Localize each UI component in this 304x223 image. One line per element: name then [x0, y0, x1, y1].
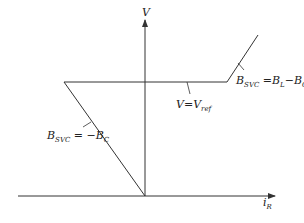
inductive-region-label: BSVC =BL−BC: [235, 74, 304, 89]
x-axis-label: iR: [263, 196, 273, 211]
capacitive-region-label: BSVC = −BC: [46, 129, 110, 144]
svc-vi-characteristic-diagram: V iR BSVC = −BC V=Vref BSVC =BL−BC: [0, 0, 304, 223]
reference-voltage-label: V=Vref: [176, 98, 213, 113]
svc-characteristic-curve: [64, 35, 258, 196]
reference-leader: [187, 82, 190, 94]
capacitive-leader: [83, 122, 91, 127]
inductive-leader: [238, 63, 244, 70]
y-axis-label: V: [142, 6, 151, 19]
